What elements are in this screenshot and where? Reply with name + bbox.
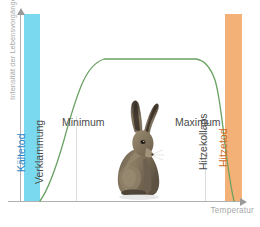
temperature-tolerance-diagram: Intensität der Lebensvorgänge Temperatur… bbox=[0, 0, 260, 227]
label-hitzetod: Hitzetod bbox=[217, 128, 229, 167]
label-verklammung: Verklammung bbox=[33, 120, 45, 184]
label-maximum: Maximum bbox=[175, 116, 221, 128]
label-minimum: Minimum bbox=[62, 116, 105, 128]
hare-illustration bbox=[113, 98, 167, 201]
label-kaeltetod: Kältetod bbox=[15, 133, 27, 172]
